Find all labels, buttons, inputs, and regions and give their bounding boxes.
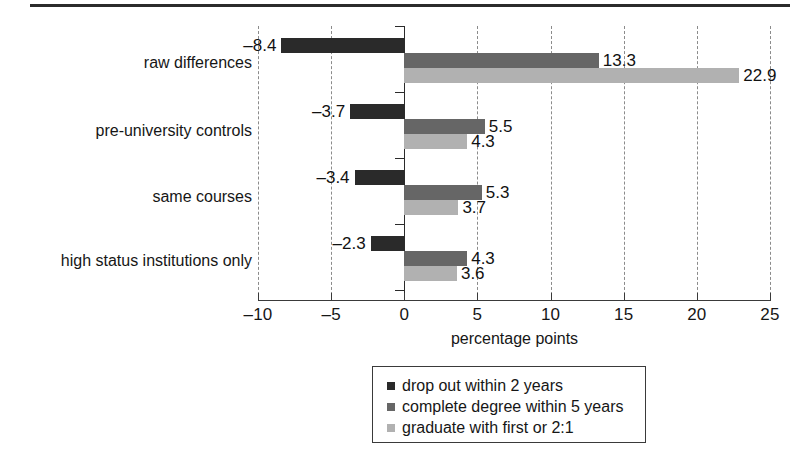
x-axis-tick-label: 25 — [740, 305, 800, 325]
x-axis-tick — [697, 293, 698, 301]
bar-value-label: –2.3 — [333, 236, 366, 251]
bar-1-0 — [404, 53, 599, 68]
x-axis-tick-label: 10 — [521, 305, 581, 325]
legend-item-0: drop out within 2 years — [387, 375, 563, 397]
bar-value-label: –8.4 — [243, 38, 276, 53]
category-label-0: raw differences — [2, 54, 252, 72]
x-axis-line — [258, 300, 771, 301]
legend-item-2: graduate with first or 2:1 — [387, 417, 574, 439]
bar-value-label: 3.6 — [461, 266, 485, 281]
x-axis-tick-label: 15 — [594, 305, 654, 325]
legend-item-label: drop out within 2 years — [402, 377, 563, 394]
bar-value-label: 5.3 — [486, 185, 510, 200]
x-axis-tick-label: 5 — [447, 305, 507, 325]
bar-2-1 — [404, 134, 467, 149]
legend-item-label: complete degree within 5 years — [402, 398, 623, 415]
x-axis-tick-label: –10 — [228, 305, 288, 325]
bar-1-3 — [404, 251, 467, 266]
legend-swatch-icon — [387, 424, 395, 432]
legend-swatch-icon — [387, 382, 395, 390]
zero-axis-tick — [395, 224, 404, 225]
x-axis-tick — [770, 293, 771, 301]
bar-value-label: –3.7 — [312, 104, 345, 119]
bar-value-label: –3.4 — [316, 170, 349, 185]
bar-value-label: 3.7 — [462, 200, 486, 215]
x-axis-tick-label: 20 — [667, 305, 727, 325]
x-axis-tick — [477, 293, 478, 301]
bar-value-label: 4.3 — [471, 134, 495, 149]
legend-swatch-icon — [387, 403, 395, 411]
bar-0-3 — [371, 236, 405, 251]
bar-value-label: 13.3 — [603, 53, 636, 68]
bar-0-0 — [281, 38, 404, 53]
x-axis-tick — [551, 293, 552, 301]
x-axis-tick — [404, 293, 405, 301]
chart-figure: –8.413.322.9–3.75.54.3–3.45.33.7–2.34.33… — [0, 0, 804, 473]
gridline — [331, 26, 332, 300]
category-label-2: same courses — [2, 188, 252, 206]
header-rule — [30, 4, 790, 7]
legend-item-label: graduate with first or 2:1 — [402, 419, 574, 436]
gridline — [258, 26, 259, 300]
zero-axis-tick — [395, 158, 404, 159]
x-axis-tick — [624, 293, 625, 301]
category-label-1: pre-university controls — [2, 122, 252, 140]
bar-0-1 — [350, 104, 404, 119]
zero-axis-tick — [395, 290, 404, 291]
zero-axis-tick — [395, 26, 404, 27]
x-axis-tick-label: –5 — [301, 305, 361, 325]
bar-2-2 — [404, 200, 458, 215]
bar-0-2 — [355, 170, 405, 185]
zero-axis-tick — [395, 92, 404, 93]
bar-2-0 — [404, 68, 739, 83]
x-axis-tick — [331, 293, 332, 301]
legend-item-1: complete degree within 5 years — [387, 396, 623, 418]
x-axis-tick-label: 0 — [374, 305, 434, 325]
chart-legend: drop out within 2 yearscomplete degree w… — [372, 366, 646, 443]
plot-area: –8.413.322.9–3.75.54.3–3.45.33.7–2.34.33… — [258, 26, 770, 300]
bar-2-3 — [404, 266, 457, 281]
category-label-3: high status institutions only — [2, 252, 252, 270]
x-axis-tick — [258, 293, 259, 301]
bar-value-label: 22.9 — [743, 68, 776, 83]
x-axis-title: percentage points — [258, 330, 771, 348]
